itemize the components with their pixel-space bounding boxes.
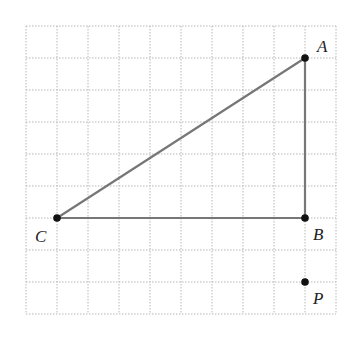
label-b: B — [313, 225, 324, 244]
label-p: P — [312, 289, 323, 308]
label-c: C — [35, 227, 47, 246]
label-a: A — [316, 37, 328, 56]
diagram-canvas: ABCP — [0, 0, 357, 337]
point-p — [301, 278, 309, 286]
point-a — [301, 54, 309, 62]
point-c — [53, 214, 61, 222]
point-b — [301, 214, 309, 222]
